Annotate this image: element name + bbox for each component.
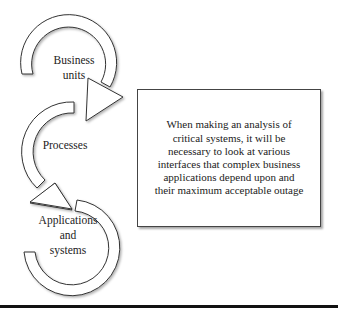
note-box: When making an analysis of critical syst… — [137, 89, 321, 227]
node-label-line: Processes — [30, 138, 100, 153]
processes-arc-arrow — [22, 102, 74, 210]
node-label-line: Applications — [28, 213, 108, 228]
note-text: When making an analysis of critical syst… — [149, 118, 310, 197]
node-label-line: systems — [28, 243, 108, 258]
node-applications-systems: Applications and systems — [28, 213, 108, 258]
node-processes: Processes — [30, 138, 100, 153]
note-line: critical systems, it will be — [155, 132, 304, 145]
node-business-units: Business units — [44, 53, 104, 83]
note-line: When making an analysis of — [155, 118, 304, 131]
node-label-line: and — [28, 228, 108, 243]
node-label-line: Business — [44, 53, 104, 68]
bottom-rule — [0, 305, 338, 308]
note-line: necessary to look at various — [155, 145, 304, 158]
note-line: applications depend upon and — [155, 171, 304, 184]
note-line: their maximum acceptable outage — [155, 184, 304, 197]
note-line: interfaces that complex business — [155, 158, 304, 171]
node-label-line: units — [44, 68, 104, 83]
